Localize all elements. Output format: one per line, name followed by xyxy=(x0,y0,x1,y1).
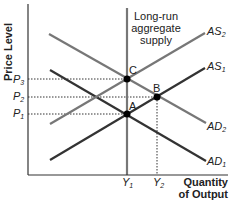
p1-label: P1 xyxy=(13,107,24,120)
lras-label-line2: aggregate xyxy=(131,22,181,34)
lras-label-line3: supply xyxy=(140,34,172,46)
x-axis-label-line1: Quantity xyxy=(183,176,228,188)
p2-label: P2 xyxy=(13,90,24,103)
x-axis-label-line2: of Output xyxy=(179,188,229,200)
point-b-label: B xyxy=(153,82,160,94)
as1-label: AS1 xyxy=(206,60,226,73)
point-c xyxy=(124,76,131,83)
as2-label: AS2 xyxy=(206,25,226,38)
point-a-label: A xyxy=(129,100,137,112)
point-c-label: C xyxy=(129,64,137,76)
y2-label: Y2 xyxy=(153,176,164,189)
ad1-label: AD1 xyxy=(206,155,226,168)
ad-as-diagram: C B A Price Level P3 P2 P1 Y1 Y2 Quantit… xyxy=(0,0,245,216)
p3-label: P3 xyxy=(13,73,24,86)
lras-label-line1: Long-run xyxy=(134,10,178,22)
point-b xyxy=(154,94,161,101)
y1-label: Y1 xyxy=(122,176,133,189)
ad2-label: AD2 xyxy=(206,120,226,133)
